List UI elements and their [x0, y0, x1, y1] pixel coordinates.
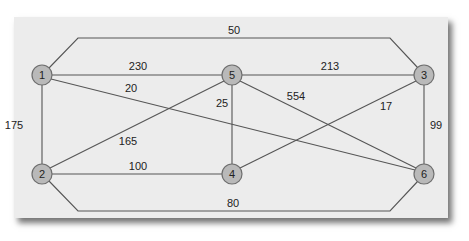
- node-label: 2: [39, 168, 45, 180]
- node-label: 3: [421, 69, 427, 81]
- edge-weights: 50 230 20 175 213 25 554 165 17 99 100 8…: [5, 24, 442, 209]
- weight-label-2-6: 80: [227, 197, 239, 209]
- edges: [42, 38, 424, 211]
- graph-node-2: 2: [32, 164, 52, 184]
- weight-label-3-6: 99: [430, 119, 442, 131]
- node-label: 6: [421, 168, 427, 180]
- weight-label-1-6: 20: [125, 82, 137, 94]
- weight-label-5-6: 554: [287, 90, 305, 102]
- weight-label-2-4: 100: [129, 160, 147, 172]
- node-label: 1: [39, 69, 45, 81]
- weight-label-5-4: 25: [216, 97, 228, 109]
- graph-node-3: 3: [414, 65, 434, 85]
- edge-1-3: [49, 38, 418, 68]
- weight-label-1-2: 175: [5, 119, 23, 131]
- weight-label-5-2: 165: [119, 135, 137, 147]
- graph-node-4: 4: [222, 164, 242, 184]
- weight-label-1-3: 50: [228, 24, 240, 36]
- weight-label-5-3: 213: [321, 60, 339, 72]
- weight-label-1-5: 230: [129, 60, 147, 72]
- node-label: 5: [229, 69, 235, 81]
- graph-node-5: 5: [222, 65, 242, 85]
- graph-node-6: 6: [414, 164, 434, 184]
- weighted-graph: 50 230 20 175 213 25 554 165 17 99 100 8…: [0, 0, 469, 241]
- weight-label-3-4: 17: [380, 100, 392, 112]
- graph-node-1: 1: [32, 65, 52, 85]
- edge-5-2: [50, 81, 224, 168]
- edge-1-6: [51, 79, 415, 170]
- node-label: 4: [229, 168, 235, 180]
